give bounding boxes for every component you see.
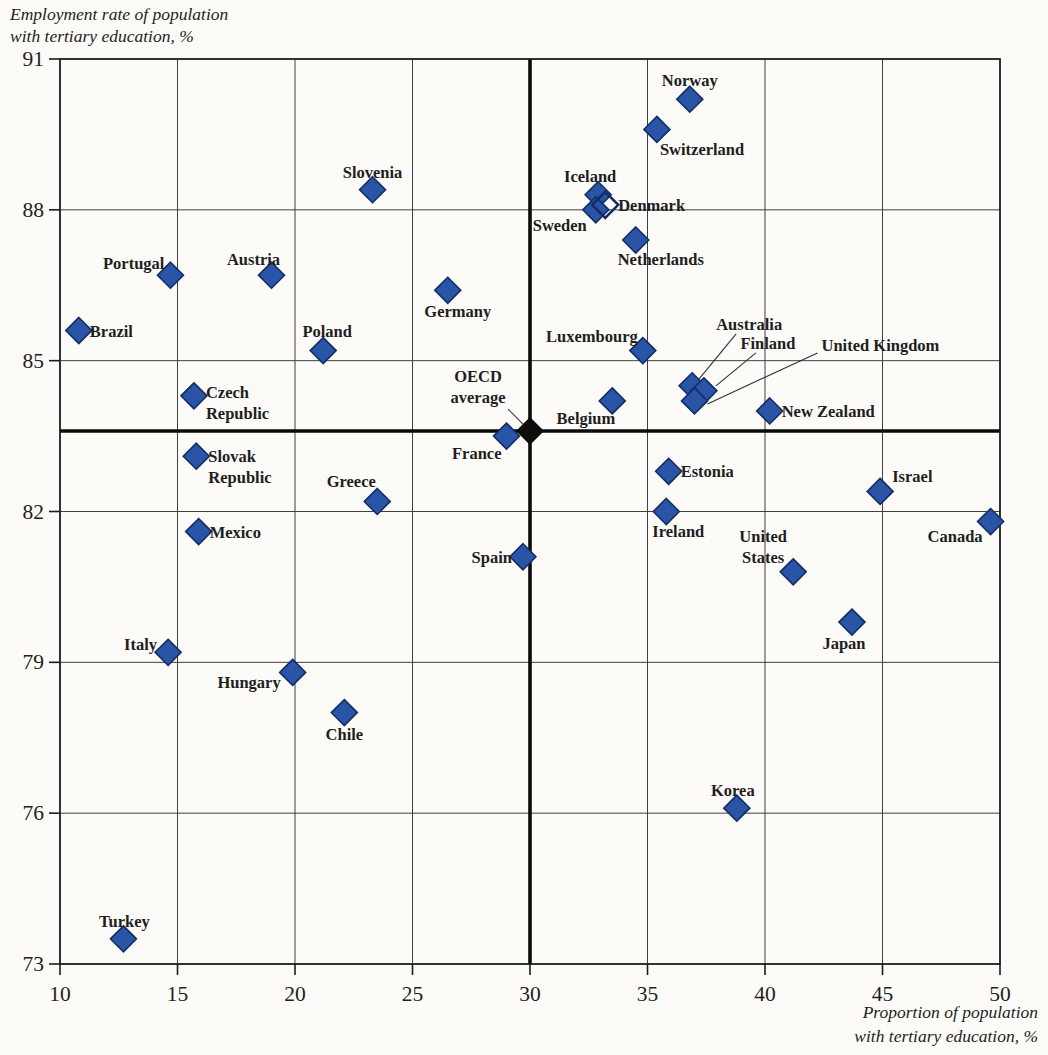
label-united-states-line2: States — [742, 548, 785, 567]
label-czech-republic-line2: Republic — [206, 404, 269, 423]
y-tick-label-79: 79 — [23, 650, 45, 674]
label-mexico: Mexico — [210, 523, 261, 542]
x-tick-label-10: 10 — [49, 982, 71, 1006]
label-slovenia: Slovenia — [343, 163, 403, 182]
label-canada: Canada — [928, 527, 983, 546]
label-brazil: Brazil — [90, 322, 133, 341]
label-netherlands: Netherlands — [618, 250, 705, 269]
page-background — [0, 0, 1048, 1055]
y-tick-label-73: 73 — [23, 952, 45, 976]
x-axis-title-line2: with tertiary education, % — [854, 1026, 1038, 1046]
label-luxembourg: Luxembourg — [546, 327, 638, 346]
x-tick-label-15: 15 — [167, 982, 189, 1006]
label-oecd-average-line1: OECD — [454, 367, 502, 386]
y-tick-label-82: 82 — [23, 500, 45, 524]
x-axis-title-line1: Proportion of population — [862, 1002, 1039, 1022]
label-iceland: Iceland — [564, 167, 616, 186]
label-new-zealand: New Zealand — [782, 402, 875, 421]
label-united-kingdom: United Kingdom — [822, 336, 940, 355]
y-axis-title-line1: Employment rate of population — [9, 4, 228, 24]
label-ireland: Ireland — [652, 522, 704, 541]
label-portugal: Portugal — [103, 254, 165, 273]
label-hungary: Hungary — [217, 673, 281, 692]
x-tick-label-30: 30 — [519, 982, 541, 1006]
label-denmark: Denmark — [618, 196, 686, 215]
label-estonia: Estonia — [681, 462, 734, 481]
label-greece: Greece — [327, 472, 376, 491]
x-tick-label-20: 20 — [284, 982, 306, 1006]
x-tick-label-35: 35 — [637, 982, 659, 1006]
label-czech-republic-line1: Czech — [206, 383, 249, 402]
chart-page: 10152025303540455073767982858891Employme… — [0, 0, 1048, 1055]
label-korea: Korea — [711, 781, 755, 800]
label-germany: Germany — [424, 302, 492, 321]
y-tick-label-76: 76 — [23, 801, 45, 825]
x-tick-label-25: 25 — [402, 982, 424, 1006]
label-italy: Italy — [124, 635, 158, 654]
y-tick-label-88: 88 — [23, 198, 45, 222]
label-france: France — [452, 444, 501, 463]
label-turkey: Turkey — [99, 912, 150, 931]
label-chile: Chile — [326, 725, 364, 744]
label-norway: Norway — [662, 71, 719, 90]
label-slovak-republic-line2: Republic — [208, 468, 271, 487]
label-australia: Australia — [716, 315, 782, 334]
label-sweden: Sweden — [533, 216, 587, 235]
label-austria: Austria — [227, 250, 280, 269]
label-belgium: Belgium — [557, 409, 616, 428]
y-tick-label-85: 85 — [23, 349, 45, 373]
label-spain: Spain — [472, 548, 512, 567]
label-oecd-average-line2: average — [451, 388, 506, 407]
label-poland: Poland — [302, 322, 352, 341]
label-slovak-republic-line1: Slovak — [208, 447, 257, 466]
y-axis-title-line2: with tertiary education, % — [10, 26, 194, 46]
y-tick-label-91: 91 — [23, 47, 45, 71]
label-switzerland: Switzerland — [660, 140, 744, 159]
label-united-states-line1: United — [739, 527, 787, 546]
label-israel: Israel — [892, 467, 933, 486]
x-tick-label-40: 40 — [754, 982, 776, 1006]
label-japan: Japan — [822, 634, 865, 653]
employment-vs-tertiary-education-scatter-chart: 10152025303540455073767982858891Employme… — [0, 0, 1048, 1055]
label-finland: Finland — [740, 334, 795, 353]
